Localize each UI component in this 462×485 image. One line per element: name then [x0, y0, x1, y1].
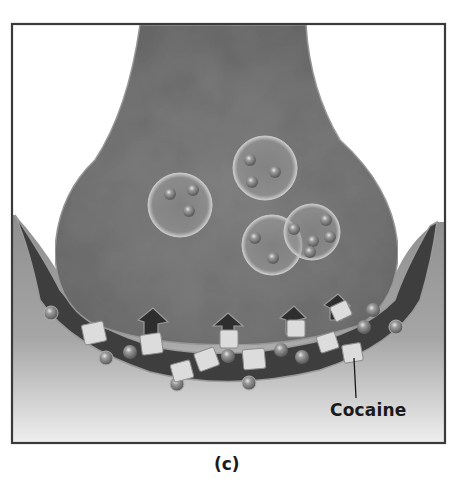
cocaine-cube	[287, 320, 305, 337]
cocaine-cube	[81, 321, 107, 345]
vesicle	[284, 204, 340, 260]
cocaine-cube	[220, 330, 238, 348]
neurotransmitter	[242, 376, 256, 390]
neurotransmitter	[221, 349, 235, 363]
cocaine-cube	[342, 342, 364, 363]
neurotransmitter	[366, 303, 380, 317]
neurotransmitter	[99, 351, 113, 365]
cocaine-label: Cocaine	[330, 400, 407, 420]
vesicle	[233, 136, 297, 200]
neurotransmitter	[123, 345, 137, 359]
neurotransmitter	[274, 343, 288, 357]
neurotransmitter	[389, 320, 403, 334]
vesicle	[148, 173, 212, 237]
neurotransmitter	[44, 306, 58, 320]
panel-caption: (c)	[214, 454, 240, 474]
neurotransmitter	[295, 350, 309, 364]
cocaine-cube	[242, 348, 266, 370]
cocaine-cube	[140, 333, 164, 356]
neurotransmitter	[357, 320, 371, 334]
